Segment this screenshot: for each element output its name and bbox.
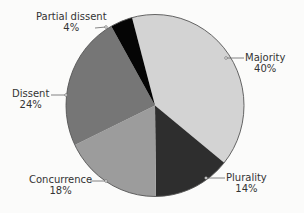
label-partial-dissent-name: Partial dissent: [36, 11, 107, 22]
dissent-marker: [65, 94, 68, 97]
label-partial-dissent-pct: 4%: [36, 22, 107, 33]
label-plurality: Plurality 14%: [226, 172, 267, 194]
label-dissent: Dissent 24%: [12, 88, 49, 110]
label-plurality-pct: 14%: [226, 183, 267, 194]
plurality-marker: [205, 177, 208, 180]
label-dissent-pct: 24%: [12, 99, 49, 110]
label-majority-pct: 40%: [245, 63, 285, 74]
label-dissent-name: Dissent: [12, 88, 49, 99]
concurrence-marker: [105, 180, 108, 183]
label-majority-name: Majority: [245, 52, 285, 63]
label-concurrence-pct: 18%: [29, 185, 92, 196]
label-plurality-name: Plurality: [226, 172, 267, 183]
majority-marker: [225, 57, 228, 60]
label-partial-dissent: Partial dissent 4%: [36, 11, 107, 33]
label-concurrence-name: Concurrence: [29, 174, 92, 185]
label-majority: Majority 40%: [245, 52, 285, 74]
label-concurrence: Concurrence 18%: [29, 174, 92, 196]
